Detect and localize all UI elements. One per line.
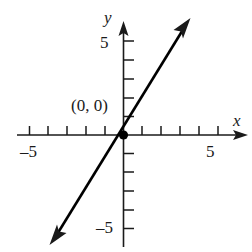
y-axis-tick-label-pos5: 5 (100, 34, 109, 51)
y-axis-tick-label-neg5: –5 (96, 219, 113, 236)
x-axis-tick-label-pos5: 5 (206, 143, 215, 160)
y-axis-name-label: y (104, 9, 112, 26)
x-axis-name-label: x (233, 112, 241, 129)
graph-figure: –5 5 5 –5 y x (0, 0) (0, 0, 252, 252)
line-arrowhead-up-icon (174, 18, 191, 39)
origin-point-marker (119, 130, 128, 139)
plotted-line (56, 28, 184, 236)
line-arrowhead-down-icon (50, 225, 67, 246)
origin-point-label: (0, 0) (71, 97, 108, 114)
x-axis-group (17, 126, 248, 140)
plotted-line-group (50, 18, 191, 245)
x-axis-tick-label-neg5: –5 (20, 143, 37, 160)
coordinate-plane-svg (0, 0, 252, 252)
